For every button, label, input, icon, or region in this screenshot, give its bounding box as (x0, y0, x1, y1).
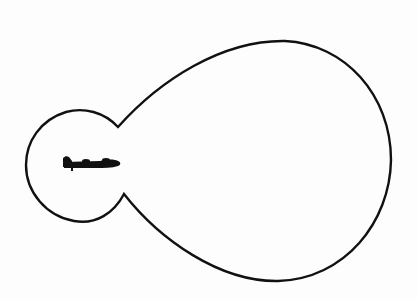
lobe-pattern-outline (26, 41, 391, 281)
diagram-canvas: Polar lobe pattern around an aircraft: s… (0, 0, 417, 300)
airplane-side-view-icon (63, 156, 120, 171)
